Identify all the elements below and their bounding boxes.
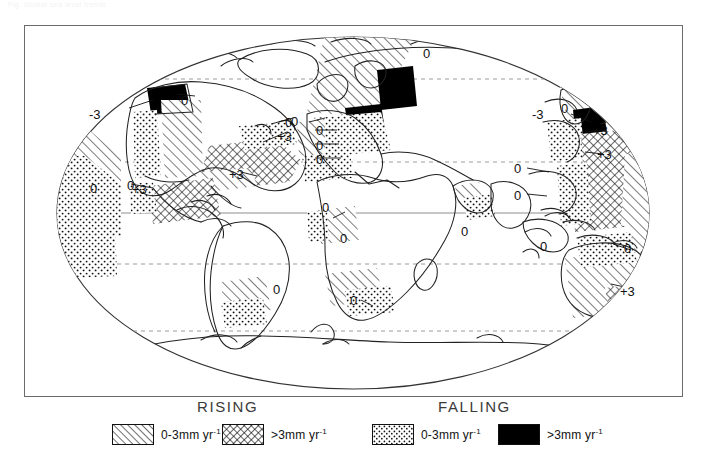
map-annotation-0: 0 — [90, 181, 97, 196]
map-annotation-minus3: -3 — [89, 107, 101, 122]
map-annotation-0: 0 — [461, 224, 468, 239]
map-annotation-0: 0 — [514, 188, 521, 203]
figure-root: Fig. Global sea level trends — [0, 0, 706, 469]
legend-swatch-solid-icon — [498, 424, 540, 445]
legend-label-rising-high: >3mm yr-1 — [271, 427, 327, 442]
map-frame: -300+300+3+30000000000-30+3+30000+3 — [24, 25, 683, 397]
legend-entry-rising-low: 0-3mm yr-1 — [112, 422, 221, 446]
map-annotation-0: 0 — [514, 161, 521, 176]
legend-entry-falling-high: >3mm yr-1 — [498, 422, 603, 446]
map-annotation-0: 0 — [423, 46, 430, 61]
legend-label-falling-high: >3mm yr-1 — [547, 427, 603, 442]
map-annotation-plus3: +3 — [620, 284, 635, 299]
legend-title-rising: RISING — [197, 398, 258, 415]
legend-row: 0-3mm yr-1 >3mm — [0, 422, 706, 452]
map-annotation-plus3: +3 — [593, 123, 608, 138]
map-annotation-plus3: +3 — [597, 147, 612, 162]
map-annotation-0: 0 — [340, 231, 347, 246]
map-annotation-plus3: +3 — [229, 167, 244, 182]
map-annotation-minus3: -3 — [532, 107, 544, 122]
legend-label-falling-low: 0-3mm yr-1 — [421, 427, 481, 442]
annotation-layer: -300+300+3+30000000000-30+3+30000+3 — [25, 26, 682, 396]
legend-entry-falling-low: 0-3mm yr-1 — [372, 422, 481, 446]
map-annotation-plus3: +3 — [132, 182, 147, 197]
map-annotation-0: 0 — [316, 152, 323, 167]
legend-swatch-stipple-icon — [372, 424, 414, 445]
legend-label-rising-low: 0-3mm yr-1 — [161, 427, 221, 442]
legend-swatch-hatch-icon — [112, 424, 154, 445]
map-annotation-0: 0 — [540, 239, 547, 254]
map-annotation-0: 0 — [316, 123, 323, 138]
map-annotation-0: 0 — [291, 114, 298, 129]
map-annotation-0: 0 — [322, 200, 329, 215]
legend-entry-rising-high: >3mm yr-1 — [222, 422, 327, 446]
map-annotation-0: 0 — [316, 138, 323, 153]
map-annotation-0: 0 — [624, 241, 631, 256]
legend: RISING FALLING 0-3mm yr-1 — [0, 398, 706, 469]
legend-swatch-crosshatch-icon — [222, 424, 264, 445]
map-annotation-0: 0 — [181, 93, 188, 108]
legend-title-falling: FALLING — [438, 398, 511, 415]
map-annotation-0: 0 — [273, 282, 280, 297]
faint-header-text: Fig. Global sea level trends — [8, 1, 107, 8]
map-annotation-plus3: +3 — [277, 129, 292, 144]
map-annotation-0: 0 — [350, 293, 357, 308]
map-annotation-0: 0 — [561, 101, 568, 116]
